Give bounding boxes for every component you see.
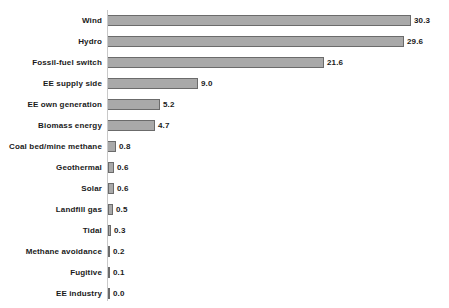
category-label: Solar (0, 178, 102, 199)
bar-value-label: 21.6 (327, 52, 343, 73)
bar-row: Wind30.3 (0, 10, 449, 31)
bar-value-label: 9.0 (201, 73, 213, 94)
bar-chart: Wind30.3Hydro29.6Fossil-fuel switch21.6E… (0, 0, 449, 308)
bar-value-label: 0.6 (117, 157, 129, 178)
bar-value-label: 29.6 (407, 31, 423, 52)
bar-value-label: 0.8 (119, 136, 131, 157)
bar-row: EE own generation5.2 (0, 94, 449, 115)
category-label: EE industry (0, 283, 102, 304)
category-label: Fossil-fuel switch (0, 52, 102, 73)
bar (108, 204, 113, 215)
category-label: Hydro (0, 31, 102, 52)
category-label: EE supply side (0, 73, 102, 94)
bar-value-label: 0.0 (113, 283, 125, 304)
bar (108, 78, 198, 89)
bar-row: Methane avoidance0.2 (0, 241, 449, 262)
category-label: Methane avoidance (0, 241, 102, 262)
category-label: Biomass energy (0, 115, 102, 136)
bar-row: Fugitive0.1 (0, 262, 449, 283)
bar (108, 120, 155, 131)
bar-value-label: 4.7 (158, 115, 170, 136)
bar-value-label: 5.2 (163, 94, 175, 115)
bar (108, 225, 111, 236)
bar (108, 267, 110, 278)
bar (108, 15, 411, 26)
bar-row: Hydro29.6 (0, 31, 449, 52)
category-label: Landfill gas (0, 199, 102, 220)
bar-row: EE industry0.0 (0, 283, 449, 304)
bar-row: Landfill gas0.5 (0, 199, 449, 220)
bar-row: Biomass energy4.7 (0, 115, 449, 136)
bar-row: Geothermal0.6 (0, 157, 449, 178)
bar (108, 288, 110, 299)
bar-value-label: 0.3 (114, 220, 126, 241)
bar-value-label: 0.1 (113, 262, 125, 283)
bar-value-label: 0.6 (117, 178, 129, 199)
bar-row: Tidal0.3 (0, 220, 449, 241)
bar-value-label: 30.3 (414, 10, 430, 31)
bar-row: EE supply side9.0 (0, 73, 449, 94)
bar (108, 246, 110, 257)
category-label: Coal bed/mine methane (0, 136, 102, 157)
category-label: Fugitive (0, 262, 102, 283)
category-label: Geothermal (0, 157, 102, 178)
category-label: Wind (0, 10, 102, 31)
bar (108, 57, 324, 68)
bar (108, 183, 114, 194)
bar-row: Coal bed/mine methane0.8 (0, 136, 449, 157)
bar (108, 141, 116, 152)
bar-value-label: 0.2 (113, 241, 125, 262)
plot-area: Wind30.3Hydro29.6Fossil-fuel switch21.6E… (0, 0, 449, 308)
bar-row: Solar0.6 (0, 178, 449, 199)
bar (108, 162, 114, 173)
bar (108, 36, 404, 47)
bar-row: Fossil-fuel switch21.6 (0, 52, 449, 73)
category-label: EE own generation (0, 94, 102, 115)
category-label: Tidal (0, 220, 102, 241)
bar (108, 99, 160, 110)
bar-value-label: 0.5 (116, 199, 128, 220)
